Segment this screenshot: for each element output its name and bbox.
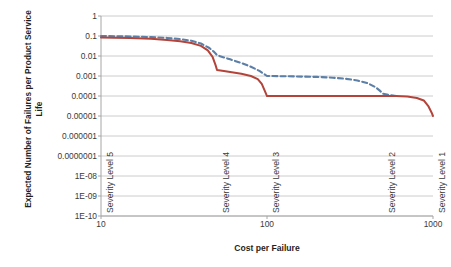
severity-level-label: Severity Level 1: [437, 152, 447, 213]
severity-level-label: Severity Level 3: [271, 152, 281, 213]
x-tick-label: 100: [247, 219, 287, 229]
x-axis-title: Cost per Failure: [101, 243, 433, 253]
x-tick-label: 10: [81, 219, 121, 229]
chart-container: Expected Number of Failures per Product …: [0, 0, 451, 267]
severity-level-label: Severity Level 4: [221, 152, 231, 213]
series-line-dashed-curve: [101, 36, 396, 96]
gridlines: [98, 16, 433, 216]
severity-level-label: Severity Level 5: [105, 152, 115, 213]
severity-level-label: Severity Level 2: [387, 152, 397, 213]
x-tick-label: 1000: [413, 219, 451, 229]
plot-area: [0, 0, 451, 267]
